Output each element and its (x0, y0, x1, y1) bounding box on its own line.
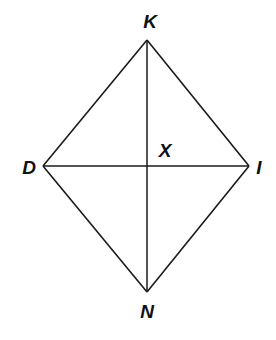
vertex-label-n: N (140, 301, 155, 322)
rhombus-diagram: K D I N X (0, 0, 276, 340)
side-nd (43, 166, 147, 292)
vertex-label-d: D (22, 157, 36, 178)
intersection-label-x: X (158, 140, 173, 161)
side-in (147, 166, 249, 292)
side-dk (43, 40, 147, 166)
vertex-label-k: K (143, 11, 158, 32)
vertex-label-i: I (256, 157, 262, 178)
